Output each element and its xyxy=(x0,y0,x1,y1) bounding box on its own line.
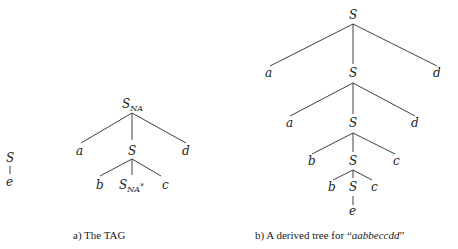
aux-l1-right: d xyxy=(182,144,190,158)
derived-tree: S a S d a S d b S c b S c e xyxy=(265,8,441,218)
caption-b-prefix: b) A derived tree for xyxy=(255,229,347,241)
aux-root-symbol: S xyxy=(122,97,130,111)
derived-l4-left: b xyxy=(328,180,336,194)
caption-b-string: aabbeccdd xyxy=(352,229,400,241)
derived-l2-left: a xyxy=(286,116,293,130)
derived-l1-right: d xyxy=(433,66,441,80)
derived-l1-mid: S xyxy=(349,66,357,80)
aux-root-label: SNA xyxy=(122,97,143,113)
auxiliary-tree: SNA a S d b SNA* c xyxy=(76,97,190,194)
derived-root: S xyxy=(349,8,357,22)
aux-foot-subscript: NA xyxy=(126,185,140,194)
tag-diagram: S e SNA a S d b SNA* c S a S d a S d xyxy=(0,0,458,249)
aux-foot-label: SNA* xyxy=(119,178,144,194)
derived-l1-left: a xyxy=(265,66,272,80)
derived-l4-right: c xyxy=(371,180,378,194)
derived-l3-left: b xyxy=(308,154,316,168)
caption-b-close-quote: ” xyxy=(399,229,404,241)
aux-l2-left: b xyxy=(96,178,104,192)
aux-l1-left: a xyxy=(76,144,83,158)
aux-l2-right: c xyxy=(162,178,169,192)
initial-tree: S e xyxy=(6,151,14,189)
caption-a: a) The TAG xyxy=(73,229,125,241)
initial-tree-root: S xyxy=(6,151,14,165)
derived-l4-mid: S xyxy=(349,180,357,194)
derived-l2-mid: S xyxy=(349,116,357,130)
aux-foot-marker: * xyxy=(140,182,144,191)
derived-leaf: e xyxy=(349,204,356,218)
aux-l1-mid: S xyxy=(128,144,136,158)
derived-l3-right: c xyxy=(393,154,400,168)
initial-tree-leaf: e xyxy=(6,175,13,189)
derived-l2-right: d xyxy=(411,116,419,130)
derived-l3-mid: S xyxy=(349,154,357,168)
aux-foot-symbol: S xyxy=(119,178,127,192)
aux-root-subscript: NA xyxy=(129,104,143,113)
caption-b: b) A derived tree for “aabbeccdd” xyxy=(255,229,404,241)
